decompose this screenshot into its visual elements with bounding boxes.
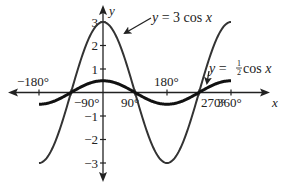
- y-tick-label: −2: [84, 132, 98, 147]
- x-axis-label: x: [271, 95, 278, 110]
- x-tick-label: 180°: [154, 74, 179, 89]
- fraction-denominator: 2: [237, 68, 241, 77]
- y-tick-label: −3: [84, 156, 98, 171]
- x-tick-label: −90°: [74, 95, 100, 110]
- equation-half-cos: y =: [207, 61, 227, 76]
- y-tick-label: 1: [92, 62, 99, 77]
- x-tick-label: −180°: [17, 74, 49, 89]
- equation-half-cos-tail: cos x: [243, 61, 272, 76]
- y-tick-label: 2: [92, 38, 99, 53]
- cosine-chart: −180°−90°90°180°270°360° x 321−1−2−3 y y…: [0, 0, 281, 185]
- y-tick-label: −1: [84, 109, 98, 124]
- fraction-numerator: 1: [237, 59, 241, 68]
- x-tick-label: 360°: [217, 95, 242, 110]
- equation-3cos: y = 3 cos x: [150, 10, 213, 25]
- y-axis-label: y: [107, 3, 115, 18]
- pointer-line-3cos: [125, 18, 151, 33]
- annotation-half-cos: y = 1 2 cos x: [207, 59, 272, 83]
- annotation-3cos: y = 3 cos x: [125, 10, 213, 33]
